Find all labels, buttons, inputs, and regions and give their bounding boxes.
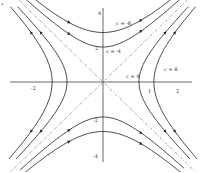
x-tick-2: 2 [176, 88, 179, 94]
x-tick-neg2: -2 [31, 85, 36, 91]
hyperbola-diagram: • 4 2 -2 -4 -2 1 2 c = -8 c = -4 c = 4 c… [0, 0, 207, 172]
axes [10, 8, 192, 162]
y-tick-neg2: -2 [93, 117, 98, 123]
hyperbola-c-8 [20, 132, 184, 173]
label-c-neg4: c = -4 [106, 48, 121, 54]
corner-mark: • [1, 1, 4, 7]
label-c-pos8: c = 8 [164, 66, 177, 72]
hyperbola-c4 [139, 7, 190, 159]
x-tick-1: 1 [148, 88, 151, 94]
hyperbola-c-8 [20, 0, 184, 33]
hyperbola-c8 [9, 7, 52, 159]
label-c-neg8: c = -8 [116, 20, 131, 26]
y-tick-4: 4 [98, 10, 101, 16]
y-tick-neg4: -4 [93, 153, 98, 159]
hyperbola-c4 [16, 7, 67, 159]
hyperbola-c8 [154, 7, 197, 159]
label-c-pos4: c = 4 [126, 73, 139, 79]
y-tick-2: 2 [95, 45, 98, 51]
